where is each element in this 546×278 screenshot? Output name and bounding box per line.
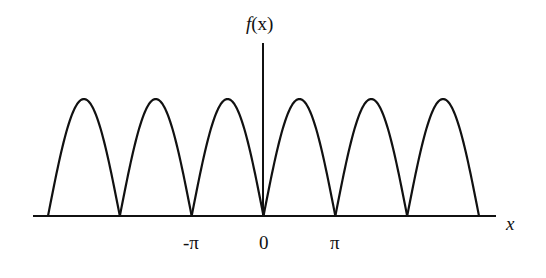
y-axis-label-arg: (x) [251,13,273,35]
tick-label-pi: π [330,232,340,253]
arch-5 [335,99,407,216]
tick-label-zero: 0 [259,232,269,253]
arch-4 [264,99,336,216]
arch-3 [192,99,264,216]
arch-2 [120,99,192,216]
y-axis-label: f(x) [246,13,273,35]
tick-label-neg-pi: -π [183,232,199,253]
x-axis-label: x [505,213,515,234]
arch-1 [48,99,120,216]
arch-6 [407,99,479,216]
rectified-sine-diagram: f(x) x -π 0 π [0,0,546,278]
